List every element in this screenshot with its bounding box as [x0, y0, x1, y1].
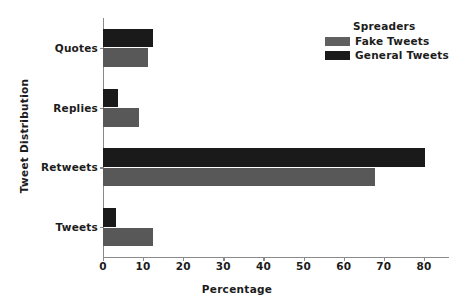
x-tick-label-20: 20 — [176, 260, 191, 272]
legend-swatch-fake-tweets-icon — [325, 37, 350, 46]
y-tick-label-retweets: Retweets — [41, 161, 98, 173]
x-tick-label-70: 70 — [376, 260, 391, 272]
bar-general-tweets-retweets — [103, 148, 425, 167]
bar-fake-tweets-replies — [103, 108, 139, 127]
bar-general-tweets-tweets — [103, 208, 116, 227]
bar-chart-figure: QuotesRepliesRetweetsTweets Percentage T… — [0, 0, 474, 307]
x-tick-label-0: 0 — [99, 260, 107, 272]
legend-title: Spreaders — [353, 20, 470, 32]
x-tick-label-10: 10 — [136, 260, 151, 272]
x-tick-mark — [384, 258, 385, 261]
legend-item-fake-tweets: Fake Tweets — [325, 35, 470, 47]
bar-general-tweets-replies — [103, 89, 118, 108]
y-axis-tick-labels: QuotesRepliesRetweetsTweets — [0, 0, 98, 307]
x-tick-label-80: 80 — [416, 260, 431, 272]
x-tick-label-50: 50 — [296, 260, 311, 272]
x-tick-label-30: 30 — [216, 260, 231, 272]
legend-swatch-general-tweets-icon — [325, 51, 350, 60]
x-tick-mark — [143, 258, 144, 261]
bar-fake-tweets-quotes — [103, 48, 148, 67]
y-tick-mark — [100, 227, 104, 228]
y-tick-label-quotes: Quotes — [55, 42, 98, 54]
bar-fake-tweets-retweets — [103, 168, 375, 187]
bar-fake-tweets-tweets — [103, 228, 153, 247]
x-tick-mark — [304, 258, 305, 261]
y-axis-title: Tweet Distribution — [18, 56, 30, 216]
x-tick-mark — [424, 258, 425, 261]
x-tick-mark — [223, 258, 224, 261]
legend-label-general-tweets: General Tweets — [355, 49, 449, 61]
x-tick-label-40: 40 — [256, 260, 271, 272]
x-axis-spine — [103, 257, 449, 258]
x-tick-mark — [103, 258, 104, 261]
x-axis-title: Percentage — [0, 283, 474, 295]
x-tick-mark — [263, 258, 264, 261]
legend-label-fake-tweets: Fake Tweets — [355, 35, 430, 47]
legend-item-general-tweets: General Tweets — [325, 49, 470, 61]
y-tick-label-replies: Replies — [53, 102, 98, 114]
x-tick-mark — [183, 258, 184, 261]
x-tick-label-60: 60 — [336, 260, 351, 272]
x-tick-mark — [344, 258, 345, 261]
chart-legend: Spreaders Fake Tweets General Tweets — [325, 20, 470, 63]
y-tick-mark — [100, 167, 104, 168]
bar-general-tweets-quotes — [103, 29, 153, 48]
y-tick-mark — [100, 108, 104, 109]
y-tick-mark — [100, 48, 104, 49]
y-tick-label-tweets: Tweets — [56, 221, 98, 233]
